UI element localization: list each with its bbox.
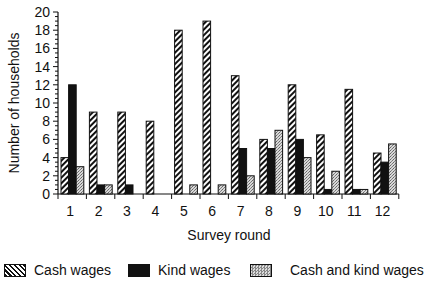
x-tick-label: 1 [66, 203, 74, 219]
bar-kind-wages [239, 149, 247, 195]
y-tick-label: 16 [34, 40, 50, 56]
bar-chart: 02468101214161820 123456789101112 Number… [0, 0, 429, 260]
bar-kind-wages [125, 185, 133, 194]
y-tick-label: 2 [42, 168, 50, 184]
bar-cash-wages [231, 76, 239, 194]
bars [61, 21, 396, 194]
x-tick-label: 2 [95, 203, 103, 219]
legend-label: Cash and kind wages [290, 262, 424, 278]
bar-cash-wages [260, 139, 268, 194]
hatch-swatch-icon [4, 264, 26, 277]
legend-item-cash-wages: Cash wages [4, 262, 111, 278]
bar-cash-and-kind-wages [76, 167, 84, 194]
y-tick-label: 4 [42, 150, 50, 166]
y-tick-label: 18 [34, 22, 50, 38]
bar-cash-and-kind-wages [247, 176, 255, 194]
bar-cash-and-kind-wages [303, 158, 311, 194]
bar-cash-wages [373, 153, 381, 194]
y-axis: 02468101214161820 [34, 4, 58, 202]
legend-label: Cash wages [34, 262, 111, 278]
bar-kind-wages [69, 85, 77, 194]
bar-kind-wages [267, 149, 275, 195]
bar-cash-and-kind-wages [332, 171, 340, 194]
y-tick-label: 20 [34, 4, 50, 20]
legend-label: Kind wages [158, 262, 230, 278]
bar-kind-wages [353, 189, 361, 194]
x-tick-label: 3 [123, 203, 131, 219]
bar-cash-and-kind-wages [190, 185, 198, 194]
bar-kind-wages [381, 162, 389, 194]
bar-cash-wages [317, 135, 325, 194]
legend-item-cash-and-kind-wages: Cash and kind wages [250, 262, 424, 278]
x-tick-label: 10 [318, 203, 334, 219]
bar-cash-wages [61, 158, 69, 194]
y-tick-label: 8 [42, 113, 50, 129]
x-tick-label: 9 [294, 203, 302, 219]
bar-cash-and-kind-wages [218, 185, 226, 194]
bar-cash-wages [175, 30, 183, 194]
x-tick-label: 8 [265, 203, 273, 219]
x-tick-label: 7 [237, 203, 245, 219]
bar-cash-wages [146, 121, 154, 194]
legend-item-kind-wages: Kind wages [128, 262, 230, 278]
x-tick-label: 6 [208, 203, 216, 219]
y-tick-label: 10 [34, 95, 50, 111]
bar-kind-wages [324, 189, 332, 194]
y-tick-label: 12 [34, 77, 50, 93]
y-tick-label: 14 [34, 59, 50, 75]
bar-kind-wages [296, 139, 304, 194]
x-tick-label: 12 [375, 203, 391, 219]
bar-cash-wages [118, 112, 126, 194]
bar-cash-wages [203, 21, 211, 194]
x-axis: 123456789101112 [58, 194, 399, 219]
stipple-swatch-icon [250, 264, 272, 277]
x-axis-label: Survey round [187, 227, 270, 243]
bar-cash-and-kind-wages [389, 144, 397, 194]
y-tick-label: 6 [42, 131, 50, 147]
bar-cash-wages [288, 85, 296, 194]
bar-cash-and-kind-wages [275, 130, 283, 194]
bar-cash-and-kind-wages [360, 189, 368, 194]
bar-cash-wages [89, 112, 97, 194]
bar-cash-and-kind-wages [105, 185, 113, 194]
bar-kind-wages [97, 185, 105, 194]
legend: Cash wages Kind wages Cash and kind wage… [4, 262, 429, 284]
solid-swatch-icon [128, 264, 150, 277]
y-axis-label: Number of households [6, 33, 22, 174]
x-tick-label: 5 [180, 203, 188, 219]
bar-cash-wages [345, 89, 353, 194]
x-tick-label: 4 [152, 203, 160, 219]
x-tick-label: 11 [347, 203, 362, 219]
y-tick-label: 0 [42, 186, 50, 202]
